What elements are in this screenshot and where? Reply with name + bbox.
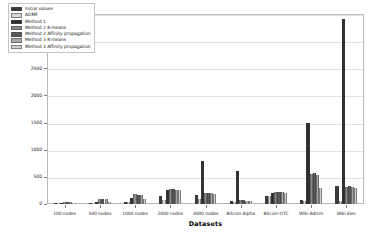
- bar-group: [300, 14, 322, 204]
- bar-group: [124, 14, 146, 204]
- x-axis-ticks: 100 nodes500 nodes1000 nodes2000 nodes30…: [47, 205, 364, 219]
- x-tick-mark: [170, 205, 171, 208]
- y-tick-label: 1000: [0, 147, 42, 152]
- legend-swatch: [11, 38, 22, 42]
- y-tick-label: 0: [0, 201, 42, 206]
- x-tick-label: Wiki Admin: [294, 211, 329, 216]
- bar-group: [335, 14, 357, 204]
- legend-item: Method 3 Affinity propagation: [11, 44, 91, 50]
- y-tick-label: 1500: [0, 120, 42, 125]
- bar: [354, 188, 357, 204]
- x-tick-label: 3000 nodes: [188, 211, 223, 216]
- bar-group: [159, 14, 181, 204]
- x-tick-mark: [241, 205, 242, 208]
- bar: [108, 202, 111, 204]
- x-tick-mark: [346, 205, 347, 208]
- legend-label: Method 3 Affinity propagation: [25, 44, 91, 50]
- x-tick-label: 1000 nodes: [117, 211, 152, 216]
- x-tick-mark: [135, 205, 136, 208]
- legend-swatch: [11, 32, 22, 36]
- x-tick-mark: [276, 205, 277, 208]
- bar: [284, 193, 287, 204]
- legend-swatch: [11, 26, 22, 30]
- bar: [249, 201, 252, 204]
- x-tick-mark: [206, 205, 207, 208]
- legend-swatch: [11, 7, 22, 11]
- x-tick-label: Bitcoin OTC: [258, 211, 293, 216]
- bar: [213, 194, 216, 204]
- x-tick-label: Bitcoin Alpha: [223, 211, 258, 216]
- y-tick-label: 2500: [0, 66, 42, 71]
- x-tick-label: 2000 nodes: [153, 211, 188, 216]
- legend-swatch: [11, 13, 22, 17]
- y-tick-label: 500: [0, 174, 42, 179]
- bar: [319, 188, 322, 204]
- x-axis-title: Datasets: [47, 220, 364, 228]
- x-tick-mark: [311, 205, 312, 208]
- bar: [236, 171, 239, 204]
- chart-figure: Sum of Opinions 050010001500200025003000…: [0, 0, 382, 243]
- bar: [143, 199, 146, 204]
- x-tick-label: 100 nodes: [47, 211, 82, 216]
- bar-group: [195, 14, 217, 204]
- legend-swatch: [11, 45, 22, 49]
- chart-legend: Initial valuesADMFMethod 1Method 2 K-mea…: [8, 3, 95, 53]
- y-tick-label: 2000: [0, 93, 42, 98]
- x-tick-label: Wiki Elec: [329, 211, 364, 216]
- bar-group: [265, 14, 287, 204]
- legend-swatch: [11, 20, 22, 24]
- x-tick-label: 500 nodes: [82, 211, 117, 216]
- x-tick-mark: [65, 205, 66, 208]
- bar: [342, 19, 345, 204]
- bar: [178, 190, 181, 204]
- bar-group: [230, 14, 252, 204]
- bar: [72, 203, 75, 204]
- x-tick-mark: [100, 205, 101, 208]
